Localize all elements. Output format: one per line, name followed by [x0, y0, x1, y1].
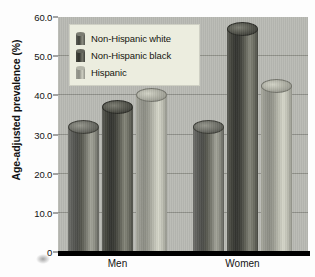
bar-body	[68, 127, 99, 252]
legend-label: Non-Hispanic white	[91, 33, 171, 44]
bar-cylinder-top	[227, 22, 258, 36]
chart-figure: Age-adjusted prevalence (%) 010.020.030.…	[0, 0, 315, 277]
legend-swatch-icon	[76, 66, 85, 79]
y-tick-label: 20.0	[34, 168, 52, 179]
bar-body	[102, 107, 133, 252]
bar-women-non-hispanic-black	[227, 22, 258, 252]
legend-swatch-top	[76, 32, 85, 36]
y-tick-label: 40.0	[34, 90, 52, 101]
bar-body	[193, 127, 224, 252]
y-tick-label: 0	[47, 247, 52, 258]
bar-cylinder-top	[68, 120, 99, 134]
bar-men-hispanic	[136, 88, 167, 252]
legend-swatch-icon	[76, 32, 85, 45]
legend: Non-Hispanic whiteNon-Hispanic blackHisp…	[69, 24, 200, 86]
bar-body	[227, 29, 258, 252]
legend-swatch-top	[76, 49, 85, 53]
legend-item-hispanic: Hispanic	[76, 64, 199, 81]
bar-men-non-hispanic-white	[68, 120, 99, 252]
legend-label: Non-Hispanic black	[91, 50, 171, 61]
legend-label: Hispanic	[91, 67, 127, 78]
x-tick-label-men: Men	[108, 258, 127, 269]
bar-body	[136, 95, 167, 252]
x-axis-line	[58, 251, 310, 256]
x-tick-label-women: Women	[225, 258, 259, 269]
y-tick-label: 30.0	[34, 129, 52, 140]
y-tick-label: 10.0	[34, 207, 52, 218]
y-tick-label: 60.0	[34, 12, 52, 23]
legend-swatch-top	[76, 66, 85, 70]
bar-women-non-hispanic-white	[193, 120, 224, 252]
x-axis-tick-labels: MenWomen	[58, 258, 308, 276]
legend-swatch-icon	[76, 49, 85, 62]
y-axis-ticks: 010.020.030.040.050.060.0	[20, 0, 58, 277]
bar-cylinder-top	[102, 100, 133, 114]
bar-body	[261, 86, 292, 252]
legend-item-non-hispanic-black: Non-Hispanic black	[76, 47, 199, 64]
bar-cylinder-top	[261, 79, 292, 93]
y-tick-label: 50.0	[34, 51, 52, 62]
bar-cylinder-top	[193, 120, 224, 134]
bar-women-hispanic	[261, 79, 292, 252]
bar-men-non-hispanic-black	[102, 100, 133, 252]
legend-item-non-hispanic-white: Non-Hispanic white	[76, 30, 199, 47]
